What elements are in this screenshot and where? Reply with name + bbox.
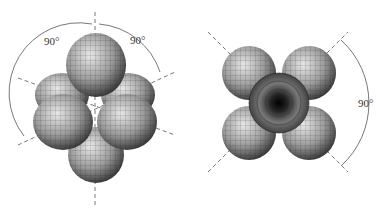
right-view: 90° [208, 32, 373, 172]
angle-label-left: 90° [44, 35, 59, 47]
diagram-canvas: 90° 90° 90° [0, 0, 385, 210]
mesh-overlay [66, 33, 126, 97]
mesh-overlay [33, 94, 93, 150]
angle-label-right-view: 90° [358, 97, 373, 109]
mesh-overlay [97, 94, 157, 150]
center-lobe-end-on [249, 73, 309, 133]
angle-label-right: 90° [130, 34, 145, 46]
left-view: 90° 90° [9, 12, 175, 205]
